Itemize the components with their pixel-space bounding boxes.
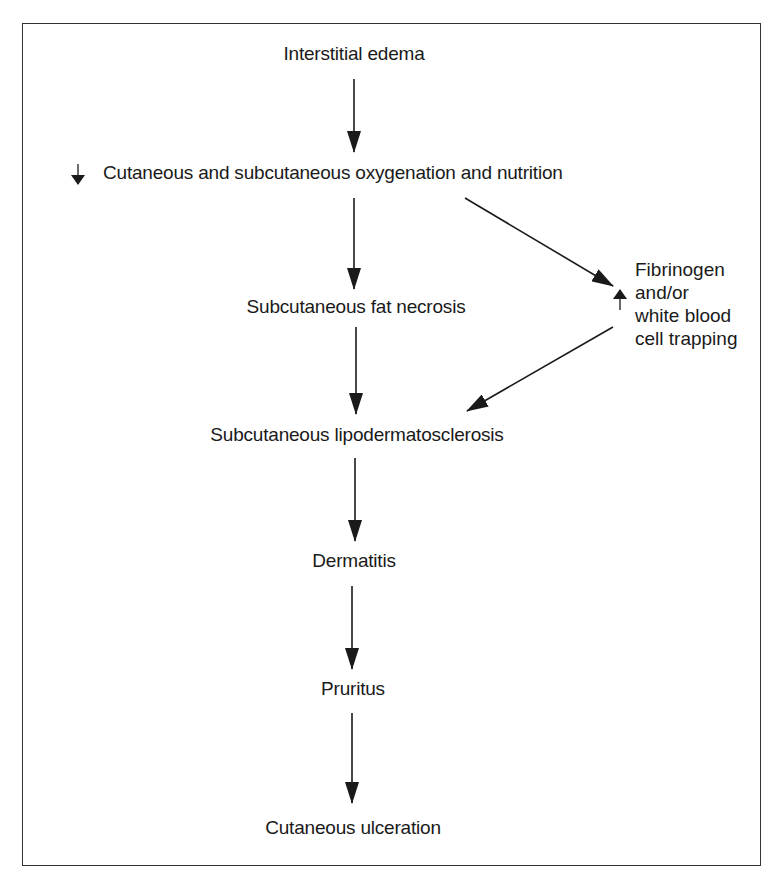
node-cutaneous-ulceration: Cutaneous ulceration [265, 817, 441, 839]
node-dermatitis: Dermatitis [312, 550, 396, 572]
arrow-trapping-to-lipodermatosclerosis [467, 327, 613, 411]
node-lipodermatosclerosis: Subcutaneous lipodermatosclerosis [210, 424, 503, 446]
side-line-1: Fibrinogen [635, 258, 737, 281]
node-interstitial-edema: Interstitial edema [283, 43, 424, 65]
side-line-3: white blood [635, 304, 737, 327]
side-line-2: and/or [635, 281, 737, 304]
node-oxygenation-nutrition: Cutaneous and subcutaneous oxygenation a… [103, 162, 563, 184]
node-fat-necrosis: Subcutaneous fat necrosis [247, 296, 466, 318]
arrows-layer [0, 0, 784, 892]
arrow-oxygenation-to-trapping [465, 198, 613, 286]
side-line-4: cell trapping [635, 327, 737, 350]
node-fibrinogen-trapping: Fibrinogen and/or white blood cell trapp… [635, 258, 737, 350]
node-pruritus: Pruritus [321, 678, 385, 700]
